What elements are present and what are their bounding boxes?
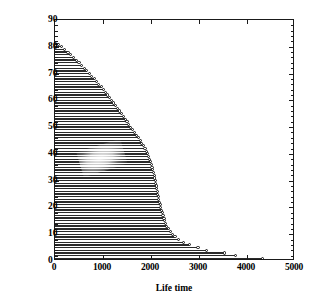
bar xyxy=(55,177,155,178)
y-tick-minor xyxy=(291,250,294,251)
bar-end-marker xyxy=(112,101,115,104)
bar-end-marker xyxy=(158,201,161,204)
bar-end-marker xyxy=(118,109,121,112)
bar-end-marker xyxy=(143,147,146,150)
bar xyxy=(55,134,137,135)
y-tick-minor xyxy=(291,170,294,171)
bar-end-marker xyxy=(88,72,91,75)
y-tick-minor xyxy=(291,224,294,225)
bar xyxy=(55,188,157,189)
bar xyxy=(55,78,94,79)
x-tick-label: 4000 xyxy=(237,262,255,272)
bar-end-marker xyxy=(66,51,69,54)
bar-end-marker xyxy=(160,209,163,212)
y-tick-minor xyxy=(55,106,58,107)
bar xyxy=(55,70,87,71)
y-tick-minor xyxy=(55,213,58,214)
x-tick xyxy=(199,20,200,24)
bar xyxy=(55,172,153,173)
bar xyxy=(55,140,140,141)
y-tick xyxy=(289,47,293,48)
bar xyxy=(55,207,161,208)
y-tick-minor xyxy=(291,143,294,144)
y-tick-minor xyxy=(55,165,58,166)
bar xyxy=(55,102,114,103)
bar-end-marker xyxy=(182,241,185,244)
bar-end-marker xyxy=(162,217,165,220)
x-tick-label: 5000 xyxy=(285,262,303,272)
x-tick xyxy=(151,255,152,259)
bar xyxy=(55,59,76,60)
x-tick xyxy=(247,20,248,24)
bar xyxy=(55,161,151,162)
y-tick-minor xyxy=(55,25,58,26)
bar xyxy=(55,199,159,200)
bar xyxy=(55,129,133,130)
y-tick-minor xyxy=(291,116,294,117)
y-tick-minor xyxy=(291,245,294,246)
bar xyxy=(55,258,263,259)
y-tick-minor xyxy=(291,25,294,26)
y-tick-minor xyxy=(55,63,58,64)
bar xyxy=(55,153,148,154)
y-tick-minor xyxy=(55,256,58,257)
x-tick xyxy=(103,20,104,24)
y-tick-minor xyxy=(291,41,294,42)
bar-end-marker xyxy=(156,193,159,196)
y-tick-minor xyxy=(291,229,294,230)
bar xyxy=(55,239,179,240)
y-tick-minor xyxy=(291,84,294,85)
x-tick xyxy=(199,255,200,259)
y-tick-minor xyxy=(291,68,294,69)
x-tick-label: 1000 xyxy=(93,262,111,272)
bar xyxy=(55,97,110,98)
y-tick-minor xyxy=(291,122,294,123)
bar-end-marker xyxy=(104,91,107,94)
y-tick-minor xyxy=(55,57,58,58)
bar xyxy=(55,244,189,245)
y-tick-minor xyxy=(55,116,58,117)
y-tick-minor xyxy=(55,245,58,246)
y-tick-minor xyxy=(55,138,58,139)
y-tick-minor xyxy=(55,240,58,241)
y-tick xyxy=(289,127,293,128)
bar-end-marker xyxy=(145,150,148,153)
bar xyxy=(55,209,162,210)
bar-end-marker xyxy=(75,59,78,62)
bar xyxy=(55,231,170,232)
x-tick-label: 3000 xyxy=(189,262,207,272)
y-tick-minor xyxy=(55,132,58,133)
bar xyxy=(55,196,158,197)
y-tick xyxy=(289,181,293,182)
y-tick-minor xyxy=(55,31,58,32)
bar xyxy=(55,250,207,251)
bar-end-marker xyxy=(156,190,159,193)
y-tick-minor xyxy=(291,165,294,166)
y-tick-minor xyxy=(55,36,58,37)
y-tick-minor xyxy=(55,218,58,219)
bar-end-marker xyxy=(102,88,105,91)
bar xyxy=(55,236,175,237)
bar xyxy=(55,185,156,186)
y-tick-minor xyxy=(55,143,58,144)
y-tick-minor xyxy=(55,90,58,91)
y-tick-minor xyxy=(291,159,294,160)
y-tick xyxy=(289,100,293,101)
chart-figure: 0100020003000400050000102030405060708090… xyxy=(0,0,320,305)
bar-end-marker xyxy=(196,246,199,249)
bar xyxy=(55,234,172,235)
x-tick-label: 2000 xyxy=(141,262,159,272)
bar xyxy=(55,76,92,77)
bar-end-marker xyxy=(150,163,153,166)
bar xyxy=(55,169,153,170)
bar xyxy=(55,193,158,194)
bar-series xyxy=(55,20,293,259)
bar xyxy=(55,204,160,205)
bar xyxy=(55,113,121,114)
bar xyxy=(55,220,165,221)
y-tick-minor xyxy=(291,197,294,198)
bar xyxy=(55,255,235,256)
bar xyxy=(55,132,135,133)
y-tick-minor xyxy=(55,170,58,171)
x-axis-title: Life time xyxy=(156,283,193,293)
